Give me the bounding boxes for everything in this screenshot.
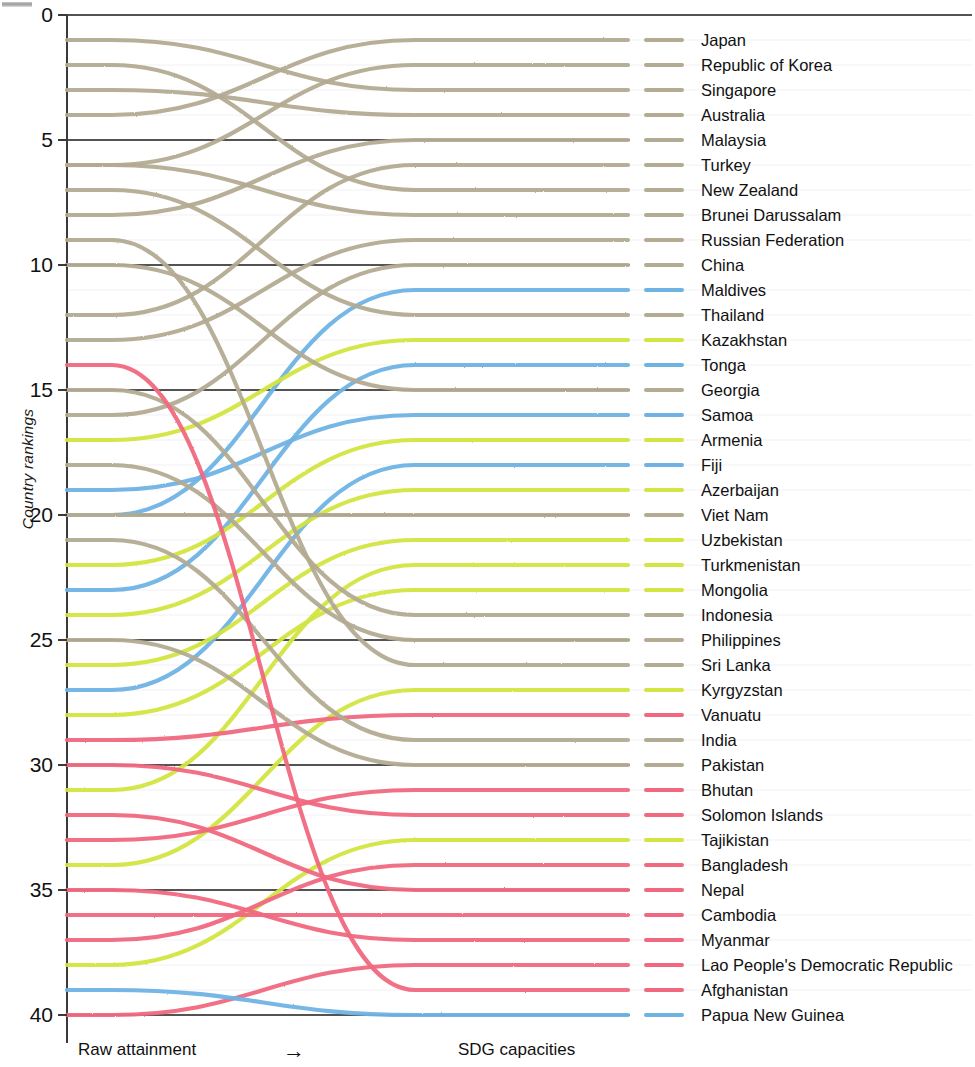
legend-item-label: Myanmar (701, 932, 770, 949)
y-tick-label: 5 (0, 129, 53, 150)
slopegraph-figure: Country rankings 0510152025303540 Raw at… (0, 0, 975, 1067)
legend-item[interactable]: Tonga (628, 353, 975, 377)
legend-color-swatch (644, 138, 684, 142)
legend-item[interactable]: Indonesia (628, 603, 975, 627)
legend-item[interactable]: Singapore (628, 78, 975, 102)
legend-item[interactable]: Viet Nam (628, 503, 975, 527)
legend-color-swatch (644, 488, 684, 492)
legend-item[interactable]: Brunei Darussalam (628, 203, 975, 227)
y-tick-label: 20 (0, 504, 53, 525)
legend-item[interactable]: New Zealand (628, 178, 975, 202)
series-line (67, 365, 628, 990)
legend-item[interactable]: Kyrgyzstan (628, 678, 975, 702)
legend-item[interactable]: Papua New Guinea (628, 1003, 975, 1027)
legend-item-label: Nepal (701, 882, 744, 899)
legend-item-label: New Zealand (701, 182, 798, 199)
legend-item-label: Turkey (701, 157, 751, 174)
legend-item-label: Philippines (701, 632, 781, 649)
legend-item[interactable]: Republic of Korea (628, 53, 975, 77)
legend-color-swatch (644, 363, 684, 367)
legend-color-swatch (644, 813, 684, 817)
x-axis-left-caption: Raw attainment (78, 1040, 196, 1060)
legend-item[interactable]: Afghanistan (628, 978, 975, 1002)
legend-item[interactable]: Australia (628, 103, 975, 127)
legend-item-label: Uzbekistan (701, 532, 783, 549)
legend-item[interactable]: Vanuatu (628, 703, 975, 727)
legend-item-label: Maldives (701, 282, 766, 299)
legend-item[interactable]: Kazakhstan (628, 328, 975, 352)
legend-color-swatch (644, 863, 684, 867)
legend-item-label: Bangladesh (701, 857, 788, 874)
legend-color-swatch (644, 888, 684, 892)
legend-color-swatch (644, 413, 684, 417)
legend-item[interactable]: Russian Federation (628, 228, 975, 252)
y-tick-label: 40 (0, 1004, 53, 1025)
legend-item[interactable]: India (628, 728, 975, 752)
legend-color-swatch (644, 188, 684, 192)
legend-item-label: Indonesia (701, 607, 773, 624)
legend-item-label: China (701, 257, 744, 274)
legend-item[interactable]: Myanmar (628, 928, 975, 952)
legend-item-label: Samoa (701, 407, 753, 424)
legend-color-swatch (644, 288, 684, 292)
legend-item[interactable]: Samoa (628, 403, 975, 427)
legend-item-label: Bhutan (701, 782, 753, 799)
series-line (67, 40, 628, 115)
legend-item-label: Singapore (701, 82, 776, 99)
legend-item[interactable]: Bangladesh (628, 853, 975, 877)
legend-item[interactable]: Georgia (628, 378, 975, 402)
legend-item-label: Tonga (701, 357, 746, 374)
x-axis-right-caption: SDG capacities (458, 1040, 575, 1060)
y-tick-label: 15 (0, 379, 53, 400)
legend-item[interactable]: Mongolia (628, 578, 975, 602)
legend-item-label: Turkmenistan (701, 557, 800, 574)
legend-item[interactable]: Azerbaijan (628, 478, 975, 502)
legend-color-swatch (644, 388, 684, 392)
legend-item[interactable]: Cambodia (628, 903, 975, 927)
legend-item[interactable]: Uzbekistan (628, 528, 975, 552)
legend-item[interactable]: Nepal (628, 878, 975, 902)
y-tick-label: 10 (0, 254, 53, 275)
legend-item[interactable]: Philippines (628, 628, 975, 652)
legend-item[interactable]: China (628, 253, 975, 277)
legend-color-swatch (644, 113, 684, 117)
legend-item-label: Armenia (701, 432, 762, 449)
legend-item[interactable]: Tajikistan (628, 828, 975, 852)
legend-color-swatch (644, 688, 684, 692)
series-line (67, 290, 628, 515)
legend-item[interactable]: Fiji (628, 453, 975, 477)
legend-item-label: Mongolia (701, 582, 768, 599)
legend-color-swatch (644, 538, 684, 542)
legend-color-swatch (644, 938, 684, 942)
legend-item[interactable]: Pakistan (628, 753, 975, 777)
legend-item[interactable]: Lao People's Democratic Republic (628, 953, 975, 977)
series-line (67, 465, 628, 690)
legend-item[interactable]: Turkey (628, 153, 975, 177)
legend-color-swatch (644, 588, 684, 592)
legend-item-label: Georgia (701, 382, 760, 399)
legend-color-swatch (644, 438, 684, 442)
legend-item-label: Afghanistan (701, 982, 788, 999)
legend-item[interactable]: Bhutan (628, 778, 975, 802)
legend-item[interactable]: Armenia (628, 428, 975, 452)
legend-item-label: Cambodia (701, 907, 776, 924)
legend-item-label: Solomon Islands (701, 807, 823, 824)
legend-color-swatch (644, 163, 684, 167)
legend-item-label: Azerbaijan (701, 482, 779, 499)
legend-item[interactable]: Japan (628, 28, 975, 52)
legend-item[interactable]: Thailand (628, 303, 975, 327)
legend-item[interactable]: Malaysia (628, 128, 975, 152)
legend-color-swatch (644, 563, 684, 567)
legend-color-swatch (644, 513, 684, 517)
legend-item-label: Kyrgyzstan (701, 682, 783, 699)
legend-item[interactable]: Maldives (628, 278, 975, 302)
legend-color-swatch (644, 713, 684, 717)
legend-item[interactable]: Sri Lanka (628, 653, 975, 677)
x-axis-arrow-icon: → (283, 1038, 305, 1064)
legend-color-swatch (644, 913, 684, 917)
legend-item-label: Vanuatu (701, 707, 761, 724)
legend-item[interactable]: Turkmenistan (628, 553, 975, 577)
legend-color-swatch (644, 38, 684, 42)
legend-item[interactable]: Solomon Islands (628, 803, 975, 827)
legend-item-label: Thailand (701, 307, 764, 324)
